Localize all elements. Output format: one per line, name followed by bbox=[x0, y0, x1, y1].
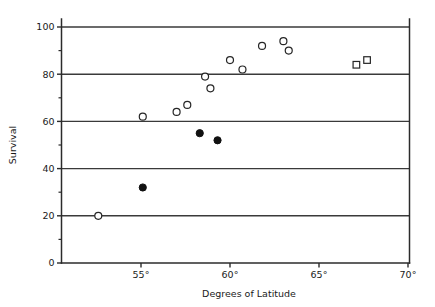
x-tick-label-60: 60° bbox=[222, 269, 239, 280]
data-point-open-circle-3 bbox=[184, 101, 191, 108]
data-point-open-circle-2 bbox=[173, 108, 180, 115]
gridlines-group bbox=[62, 27, 410, 216]
data-point-open-circle-8 bbox=[259, 42, 266, 49]
y-tick-label-80: 80 bbox=[42, 69, 54, 80]
x-tick-label-55: 55° bbox=[133, 269, 150, 280]
y-tick-label-60: 60 bbox=[42, 116, 54, 127]
data-point-filled-circle-0 bbox=[139, 184, 146, 191]
data-point-open-circle-10 bbox=[285, 47, 292, 54]
data-point-open-circle-4 bbox=[202, 73, 209, 80]
series-open-square bbox=[353, 57, 370, 68]
x-axis-title: Degrees of Latitude bbox=[202, 288, 296, 299]
y-axis-title: Survival bbox=[7, 126, 18, 164]
data-point-open-circle-0 bbox=[95, 212, 102, 219]
data-point-filled-circle-1 bbox=[196, 130, 203, 137]
data-point-open-square-1 bbox=[364, 57, 371, 64]
data-point-open-square-0 bbox=[353, 61, 360, 68]
y-tick-label-0: 0 bbox=[48, 257, 54, 268]
x-tick-label-70: 70° bbox=[400, 269, 417, 280]
y-tick-label-100: 100 bbox=[36, 21, 54, 32]
series-filled-circle bbox=[139, 130, 221, 191]
data-point-open-circle-7 bbox=[239, 66, 246, 73]
data-point-open-circle-1 bbox=[139, 113, 146, 120]
data-point-open-circle-9 bbox=[280, 38, 287, 45]
data-point-open-circle-6 bbox=[227, 57, 234, 64]
chart-figure: 02040608010055°60°65°70° Degrees of Lati… bbox=[0, 0, 435, 307]
data-points-group bbox=[95, 38, 371, 220]
y-tick-label-20: 20 bbox=[42, 210, 54, 221]
y-tick-label-40: 40 bbox=[42, 163, 54, 174]
axes-group bbox=[62, 19, 410, 263]
x-tick-label-65: 65° bbox=[311, 269, 328, 280]
series-open-circle bbox=[95, 38, 292, 220]
scatter-plot: 02040608010055°60°65°70° Degrees of Lati… bbox=[0, 0, 435, 307]
data-point-filled-circle-2 bbox=[214, 137, 221, 144]
data-point-open-circle-5 bbox=[207, 85, 214, 92]
